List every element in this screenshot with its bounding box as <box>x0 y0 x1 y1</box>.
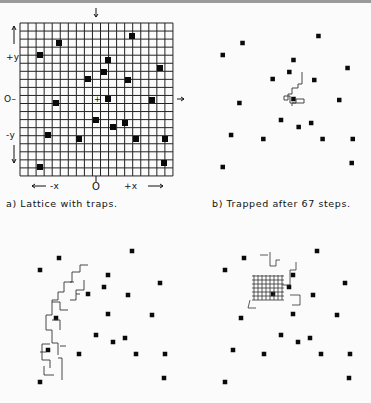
trap-square <box>221 53 226 58</box>
trap-square <box>162 136 168 142</box>
trap-square <box>296 125 301 130</box>
trap-square <box>110 124 116 130</box>
trap-square <box>37 164 43 170</box>
trap-square <box>37 52 43 58</box>
trap-square <box>231 348 236 353</box>
trap-square <box>237 101 242 106</box>
trap-square <box>53 100 59 106</box>
trap-square <box>223 380 228 385</box>
trap-square <box>271 292 276 297</box>
arrow-up-icon <box>12 26 16 44</box>
trap-square <box>308 336 313 341</box>
trap-square <box>345 66 350 71</box>
trap-square <box>239 316 244 321</box>
trap-square <box>279 118 284 123</box>
trap-square <box>105 57 111 63</box>
trap-square <box>287 285 292 290</box>
trap-square <box>102 285 107 290</box>
trap-square <box>163 352 168 357</box>
trap-square <box>229 133 234 138</box>
walk-path <box>248 252 300 308</box>
trap-square <box>130 249 135 254</box>
trap-square <box>106 312 111 317</box>
trap-square <box>242 256 247 261</box>
trap-square <box>76 136 82 142</box>
trap-square <box>351 137 356 142</box>
trap-square <box>45 132 51 138</box>
trap-square <box>150 313 155 318</box>
trap-square <box>279 333 284 338</box>
axis-label-minus-y: -y <box>6 130 15 140</box>
trap-square <box>111 340 116 345</box>
trap-square <box>125 77 131 83</box>
trap-square <box>93 117 99 123</box>
trap-square <box>343 281 348 286</box>
trap-square <box>287 70 292 75</box>
trap-square <box>57 256 62 261</box>
trap-square <box>105 96 111 102</box>
arrow-right-icon <box>148 184 163 188</box>
trap-square <box>85 76 91 82</box>
trap-square <box>312 78 317 83</box>
trap-square <box>315 249 320 254</box>
trap-square <box>337 98 342 103</box>
trap-square <box>161 160 167 166</box>
axis-label-origin-x: O <box>92 181 100 192</box>
trap-square <box>349 161 354 166</box>
arrow-down-icon <box>12 145 16 163</box>
trap-square <box>134 352 139 357</box>
trap-square <box>46 348 51 353</box>
trap-square <box>162 376 167 381</box>
trap-square <box>291 273 296 278</box>
trap-square <box>133 136 139 142</box>
arrow-right-icon <box>177 97 184 101</box>
trap-square <box>106 273 111 278</box>
trap-square <box>123 336 128 341</box>
trap-square <box>94 333 99 338</box>
trap-square <box>316 34 321 39</box>
trap-square <box>335 313 340 318</box>
trap-square <box>240 41 245 46</box>
trap-square <box>319 352 324 357</box>
trap-square <box>291 58 296 63</box>
trap-square <box>101 69 107 75</box>
walk-path <box>42 265 88 380</box>
trap-square <box>309 121 314 126</box>
trap-square <box>261 137 266 142</box>
trap-square <box>38 268 43 273</box>
trap-square <box>158 281 163 286</box>
trap-square <box>221 165 226 170</box>
trap-square <box>311 293 316 298</box>
trap-square <box>77 352 82 357</box>
trap-square <box>56 40 62 46</box>
axis-label-origin-y: O– <box>4 94 16 104</box>
origin-marker: + <box>94 95 101 104</box>
trap-square <box>38 380 43 385</box>
trap-square <box>122 120 128 126</box>
trap-square <box>348 352 353 357</box>
trap-square <box>223 268 228 273</box>
axis-label-minus-x: -x <box>50 181 59 191</box>
axis-label-plus-y: +y <box>6 52 19 62</box>
trap-square <box>262 352 267 357</box>
trap-square <box>129 33 135 39</box>
trap-square <box>296 340 301 345</box>
arrow-down-icon <box>94 8 98 17</box>
caption-a: a) Lattice with traps. <box>6 198 118 209</box>
trap-square <box>347 376 352 381</box>
trap-square <box>149 97 155 103</box>
trap-square <box>270 77 275 82</box>
axis-label-plus-x: +x <box>124 181 137 191</box>
trap-square <box>320 137 325 142</box>
trap-square <box>291 97 296 102</box>
arrow-left-icon <box>32 184 46 188</box>
trap-square <box>291 312 296 317</box>
trap-square <box>126 293 131 298</box>
trap-square <box>157 65 163 71</box>
caption-b: b) Trapped after 67 steps. <box>212 198 351 209</box>
trap-square <box>86 292 91 297</box>
